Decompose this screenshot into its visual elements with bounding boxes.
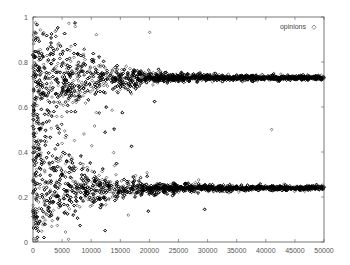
legend-diamond-icon <box>312 25 316 29</box>
legend: opinions <box>280 23 316 31</box>
y-tick-label: 0 <box>24 239 28 246</box>
x-tick-label: 20000 <box>140 247 160 254</box>
x-tick-label: 10000 <box>81 247 101 254</box>
x-tick-label: 40000 <box>256 247 276 254</box>
y-axis: 00.20.40.60.81 <box>18 14 324 246</box>
y-tick-label: 0.6 <box>18 104 28 111</box>
x-tick-label: 35000 <box>227 247 247 254</box>
plot-frame <box>33 17 324 242</box>
x-tick-label: 50000 <box>314 247 334 254</box>
y-tick-label: 0.2 <box>18 194 28 201</box>
opinion-markers <box>32 21 326 242</box>
x-tick-label: 25000 <box>169 247 189 254</box>
x-tick-label: 0 <box>31 247 35 254</box>
scatter-chart: 0500010000150002000025000300003500040000… <box>0 0 350 265</box>
opinion-points <box>32 21 326 242</box>
y-tick-label: 0.8 <box>18 59 28 66</box>
x-tick-label: 45000 <box>285 247 305 254</box>
y-tick-label: 0.4 <box>18 149 28 156</box>
x-tick-label: 30000 <box>198 247 218 254</box>
x-tick-label: 15000 <box>111 247 131 254</box>
y-tick-label: 1 <box>24 14 28 21</box>
legend-label: opinions <box>280 23 307 31</box>
x-tick-label: 5000 <box>54 247 70 254</box>
